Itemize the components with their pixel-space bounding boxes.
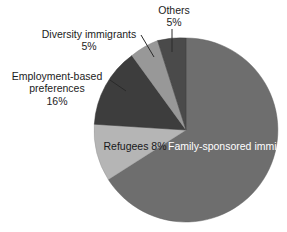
- slice-label-refugees-name: Refugees: [103, 140, 148, 152]
- slice-label-employment-based-preferences-name-line2: preferences: [2, 82, 112, 94]
- slice-label-employment-based-preferences: Employment-based preferences 16%: [2, 70, 112, 107]
- slice-label-refugees: Refugees 8%: [98, 140, 172, 152]
- slice-label-employment-based-preferences-value: 16%: [2, 95, 112, 107]
- slice-label-diversity-immigrants-name: Diversity immigrants: [28, 28, 150, 40]
- slice-label-family-sponsored-immigrants: Family-sponsored immigrants 66%: [168, 140, 276, 152]
- slice-label-employment-based-preferences-name-line1: Employment-based: [2, 70, 112, 82]
- slice-label-others-value: 5%: [141, 16, 207, 28]
- slice-label-refugees-value: 8%: [151, 140, 166, 152]
- pie-chart: Others 5% Diversity immigrants 5% Employ…: [0, 0, 287, 232]
- slice-label-family-sponsored-immigrants-name-line1: Family-sponsored: [168, 140, 251, 152]
- slice-label-others-name: Others: [141, 4, 207, 16]
- slice-label-diversity-immigrants: Diversity immigrants 5%: [28, 28, 150, 53]
- slice-label-others: Others 5%: [141, 4, 207, 29]
- slice-label-family-sponsored-immigrants-name-line2: immigrants: [254, 140, 287, 152]
- slice-label-diversity-immigrants-value: 5%: [28, 40, 150, 52]
